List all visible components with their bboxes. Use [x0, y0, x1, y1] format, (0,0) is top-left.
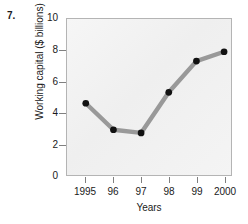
x-tick-mark-99: [197, 177, 198, 183]
plot-area: [66, 18, 232, 176]
y-tick-mark-8: [59, 50, 66, 51]
chart-figure: 7. Working capital ($ billions) 10 8 6 4…: [0, 0, 248, 224]
x-axis-title: Years: [66, 202, 232, 213]
x-tick-mark-98: [169, 177, 170, 183]
y-tick-mark-2: [59, 145, 66, 146]
data-point-marker: [82, 100, 89, 107]
y-tick-label-6: 6: [18, 77, 58, 87]
data-point-marker: [138, 130, 145, 137]
y-tick-label-0: 0: [18, 171, 58, 181]
y-tick-mark-6: [59, 82, 66, 83]
data-point-marker: [193, 58, 200, 65]
problem-number-label: 7.: [7, 10, 15, 21]
x-tick-mark-97: [141, 177, 142, 183]
x-tick-mark-96: [113, 177, 114, 183]
data-series-line: [67, 19, 231, 175]
x-tick-mark-1995: [85, 177, 86, 183]
data-point-marker: [110, 126, 117, 133]
y-tick-label-8: 8: [18, 45, 58, 55]
data-point-marker: [221, 48, 228, 55]
y-tick-label-10: 10: [18, 13, 58, 23]
data-point-marker: [165, 89, 172, 96]
y-tick-label-2: 2: [18, 140, 58, 150]
y-tick-label-4: 4: [18, 108, 58, 118]
y-tick-mark-4: [59, 113, 66, 114]
x-tick-label-2000: 2000: [205, 186, 245, 197]
x-tick-mark-2000: [225, 177, 226, 183]
